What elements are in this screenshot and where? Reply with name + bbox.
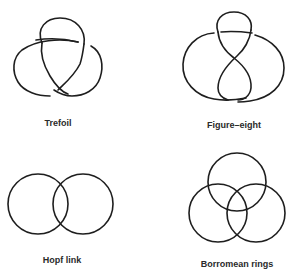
borromean-rings — [189, 153, 285, 242]
knot-diagram — [0, 0, 291, 277]
figure-eight-knot — [183, 12, 284, 102]
figure-eight-label: Figure–eight — [207, 120, 261, 130]
trefoil-label: Trefoil — [44, 118, 71, 128]
hopf-link — [8, 174, 113, 234]
trefoil-knot — [14, 18, 102, 96]
hopf-link-label: Hopf link — [43, 255, 82, 265]
borromean-rings-label: Borromean rings — [201, 259, 274, 269]
